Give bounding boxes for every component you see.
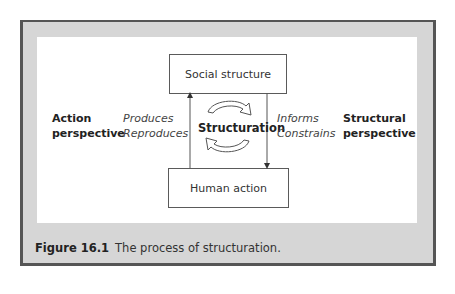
figure-number: Figure 16.1 — [35, 241, 109, 255]
structural-perspective-label: Structural perspective — [343, 111, 416, 141]
produces-reproduces-label: Produces Reproduces — [123, 111, 188, 141]
figure-caption: Figure 16.1The process of structuration. — [35, 241, 281, 255]
action-perspective-label: Action perspective — [52, 111, 125, 141]
cycle-arrow-top-icon — [208, 101, 251, 115]
informs-constrains-label: Informs Constrains — [277, 111, 335, 141]
figure-caption-text: The process of structuration. — [115, 241, 281, 255]
cycle-arrow-bottom-icon — [206, 138, 249, 152]
structuration-label: Structuration — [198, 121, 285, 136]
